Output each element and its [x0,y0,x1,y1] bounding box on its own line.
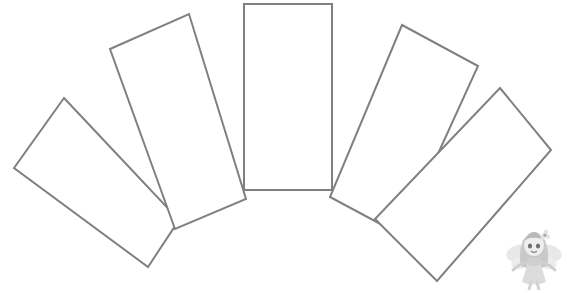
fairy-mascot [505,222,563,290]
fan-blade-3 [244,4,332,190]
fairy-flower-icon [540,230,550,241]
fairy-eye-left-icon [528,243,532,248]
fairy-leg-left-icon [529,282,531,290]
fairy-leg-right-icon [537,282,539,290]
fan-blade-3-outline [244,4,332,190]
fan-template-drawing [0,0,567,293]
page-canvas [0,0,567,293]
fairy-mascot-graphic [505,222,563,290]
fairy-eye-right-icon [536,243,540,248]
